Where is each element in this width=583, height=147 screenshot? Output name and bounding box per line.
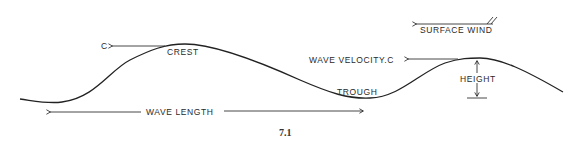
height-label: HEIGHT (460, 74, 496, 84)
trough-label: TROUGH (337, 87, 377, 97)
wave-length-label: WAVE LENGTH (146, 107, 214, 117)
c-label: C (101, 41, 108, 51)
figure-number: 7.1 (279, 127, 292, 138)
crest-label: CREST (167, 47, 199, 57)
wave-diagram: C CREST WAVE LENGTH TROUGH WAVE VELOCITY… (0, 0, 583, 147)
surface-wind-label: SURFACE WIND (420, 25, 492, 35)
wave-velocity-label: WAVE VELOCITY.C (309, 55, 394, 65)
